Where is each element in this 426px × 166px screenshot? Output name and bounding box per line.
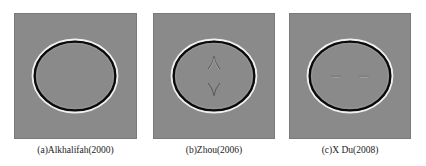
streak-artifact	[331, 76, 368, 77]
wavefield-panel-c	[289, 13, 411, 139]
caption-panel-b: (b)Zhou(2006)	[153, 145, 275, 155]
wavefront-ellipse	[154, 14, 274, 138]
caption-panel-a: (a)Alkhalifah(2000)	[14, 145, 137, 155]
cusp-artifact	[208, 56, 220, 95]
caption-panel-c: (c)X Du(2008)	[289, 145, 411, 155]
wavefront-ellipse	[290, 14, 410, 138]
wavefield-panel-b	[153, 13, 275, 139]
wavefront-ellipse	[15, 14, 136, 138]
wavefield-panel-a	[14, 13, 137, 139]
